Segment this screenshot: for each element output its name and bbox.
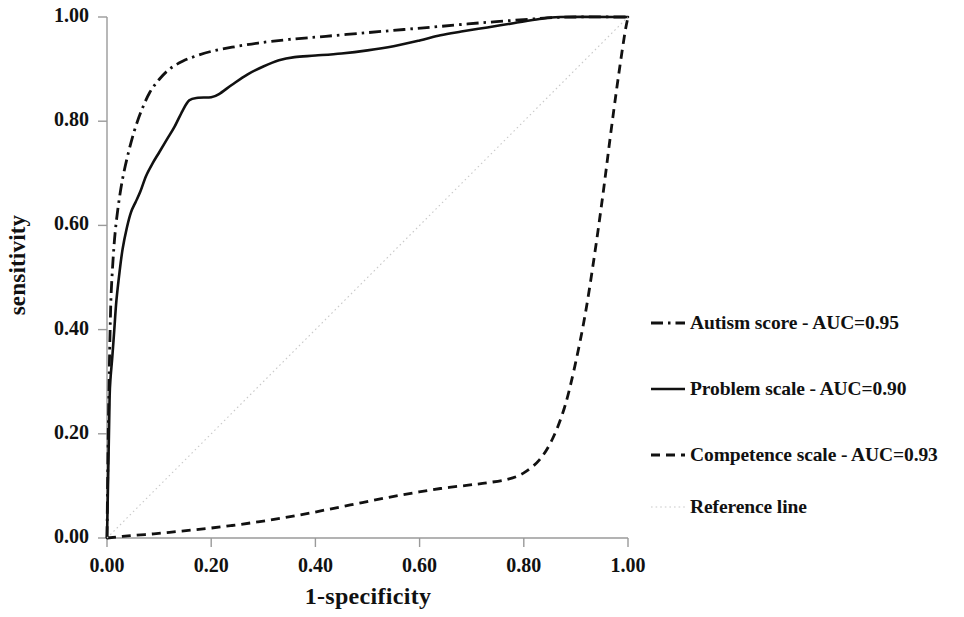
x-axis-title: 1-specificity bbox=[107, 583, 629, 610]
y-axis-tick-label-4: 0.80 bbox=[5, 108, 89, 131]
legend-line-sample-dash-dot-icon bbox=[650, 316, 686, 330]
y-axis-tick-label-0: 0.00 bbox=[5, 525, 89, 548]
legend-item-0[interactable]: Autism score - AUC=0.95 bbox=[650, 308, 899, 338]
roc-chart-figure: sensitivity 1-specificity 0.000.200.400.… bbox=[0, 0, 964, 617]
y-axis-tick-label-5: 1.00 bbox=[5, 4, 89, 27]
y-axis-tick-label-1: 0.20 bbox=[5, 421, 89, 444]
x-axis-tick-label-5: 1.00 bbox=[588, 554, 668, 577]
legend-item-1[interactable]: Problem scale - AUC=0.90 bbox=[650, 374, 906, 404]
legend-line-sample-solid-icon bbox=[650, 382, 686, 396]
legend-item-label-2: Competence scale - AUC=0.93 bbox=[690, 444, 938, 466]
y-axis-tick-label-2: 0.40 bbox=[5, 317, 89, 340]
y-axis-tick-label-3: 0.60 bbox=[5, 212, 89, 235]
figure-canvas: sensitivity 1-specificity 0.000.200.400.… bbox=[0, 0, 964, 617]
x-axis-tick-label-0: 0.00 bbox=[67, 554, 147, 577]
x-axis-tick-label-2: 0.40 bbox=[275, 554, 355, 577]
legend-item-label-0: Autism score - AUC=0.95 bbox=[690, 312, 899, 334]
legend-item-label-3: Reference line bbox=[690, 496, 807, 518]
legend-line-sample-dotted-icon bbox=[650, 500, 686, 514]
legend-item-2[interactable]: Competence scale - AUC=0.93 bbox=[650, 440, 938, 470]
legend-item-label-1: Problem scale - AUC=0.90 bbox=[690, 378, 906, 400]
x-axis-tick-label-4: 0.80 bbox=[484, 554, 564, 577]
x-axis-tick-label-3: 0.60 bbox=[380, 554, 460, 577]
series-curve-3 bbox=[107, 17, 628, 538]
x-axis-tick-label-1: 0.20 bbox=[171, 554, 251, 577]
legend-item-3[interactable]: Reference line bbox=[650, 492, 807, 522]
legend-line-sample-dashed-icon bbox=[650, 448, 686, 462]
